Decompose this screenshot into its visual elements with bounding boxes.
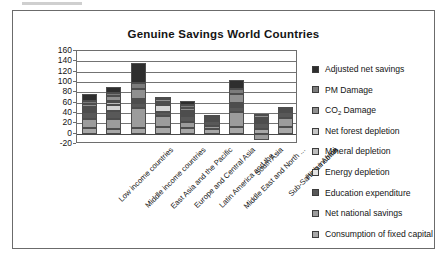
bar-segment <box>106 93 121 96</box>
bar-segment <box>254 123 269 129</box>
bar-segment <box>131 108 146 128</box>
bar-segment <box>180 111 195 113</box>
bar-segment <box>229 127 244 133</box>
bar-segment <box>204 129 219 134</box>
bar-segment <box>155 127 170 133</box>
bar-segment <box>106 111 121 119</box>
bar-column <box>180 51 195 142</box>
bar-segment <box>180 122 195 128</box>
bar-segment <box>106 129 121 134</box>
legend-swatch-icon <box>312 210 319 217</box>
bar-segment <box>155 112 170 116</box>
bar-segment <box>278 107 293 109</box>
bar-segment <box>229 94 244 103</box>
legend-swatch-icon <box>312 66 319 73</box>
legend-swatch-icon <box>312 189 319 196</box>
bar-segment <box>82 112 97 118</box>
chart-frame: Genuine Savings World Countries 16014012… <box>12 10 435 249</box>
y-axis-tick-mark <box>73 133 76 134</box>
bar-segment <box>106 101 121 103</box>
y-axis-tick-mark <box>73 102 76 103</box>
plot-wrapper: 160140120100806040200-20 <box>76 50 297 143</box>
bar-segment <box>180 101 195 106</box>
bar-segment <box>82 94 97 101</box>
bar-column <box>229 51 244 142</box>
bar-column <box>82 51 97 142</box>
bar-segment <box>204 126 219 129</box>
bar-segment <box>82 109 97 111</box>
bar-segment <box>204 118 219 120</box>
bar-segment <box>82 104 97 108</box>
bar-segment <box>180 128 195 134</box>
y-axis-tick-label: 120 <box>58 66 72 75</box>
y-axis-tick-label: 100 <box>58 77 72 86</box>
bar-segment <box>229 89 244 95</box>
legend-swatch-icon <box>312 169 319 176</box>
bar-column <box>278 51 293 142</box>
bar-segment <box>278 118 293 127</box>
bar-column <box>131 51 146 142</box>
legend-item[interactable]: Mineral depletion <box>312 141 447 162</box>
legend-label: Net forest depletion <box>325 127 400 136</box>
legend-item[interactable]: Net forest depletion <box>312 121 447 142</box>
bar-segment <box>106 105 121 111</box>
bar-segment <box>131 99 146 101</box>
bar-segment <box>155 99 170 102</box>
bar-segment <box>254 134 269 141</box>
bar-segment <box>106 96 121 101</box>
legend-item[interactable]: Education expenditure <box>312 183 447 204</box>
legend-label: PM Damage <box>325 86 373 95</box>
y-axis-tick-mark <box>73 81 76 82</box>
bar-segment <box>155 105 170 112</box>
bar-segment <box>278 110 293 112</box>
chart-screenshot: Genuine Savings World Countries 16014012… <box>0 0 447 259</box>
bar-segment <box>82 107 97 109</box>
chart-title: Genuine Savings World Countries <box>13 28 434 40</box>
legend-label: Adjusted net savings <box>325 65 404 74</box>
y-axis-tick-label: 160 <box>58 46 72 55</box>
legend-swatch-icon <box>312 231 319 238</box>
bar-segment <box>106 119 121 129</box>
y-axis-tick-mark <box>73 91 76 92</box>
bar-column <box>106 51 121 142</box>
bar-segment <box>229 107 244 112</box>
legend-item[interactable]: PM Damage <box>312 80 447 101</box>
y-axis-tick-label: -20 <box>60 139 72 148</box>
y-axis-tick-label: 40 <box>63 108 72 117</box>
legend-item[interactable]: Adjusted net savings <box>312 59 447 80</box>
y-axis-tick-mark <box>73 122 76 123</box>
bar-column <box>204 51 219 142</box>
legend-label: Mineral depletion <box>325 147 390 156</box>
bar-segment <box>204 115 219 117</box>
bar-segment <box>131 103 146 108</box>
bar-segment <box>106 87 121 93</box>
bar-segment <box>180 116 195 122</box>
legend-swatch-icon <box>312 107 319 114</box>
legend-item[interactable]: CO2 Damage <box>312 100 447 121</box>
y-axis-tick-label: 80 <box>63 87 72 96</box>
bar-segment <box>155 97 170 99</box>
legend-item[interactable]: Energy depletion <box>312 162 447 183</box>
bar-segment <box>180 108 195 111</box>
bar-segment <box>82 119 97 128</box>
legend-label: Net national savings <box>325 209 402 218</box>
bar-segment <box>131 83 146 89</box>
legend-label: CO2 Damage <box>325 106 376 115</box>
legend-item[interactable]: Net national savings <box>312 203 447 224</box>
legend-label: Energy depletion <box>325 168 390 177</box>
bar-segment <box>131 128 146 134</box>
legend-item[interactable]: Consumption of fixed capital <box>312 224 447 245</box>
legend-swatch-icon <box>312 148 319 155</box>
legend-swatch-icon <box>312 86 319 93</box>
plot-area <box>76 50 297 143</box>
bar-segment <box>254 114 269 116</box>
bars-layer <box>77 51 296 142</box>
bar-segment <box>229 103 244 105</box>
y-axis-tick-mark <box>73 60 76 61</box>
y-axis-tick-mark <box>73 50 76 51</box>
bar-segment <box>229 112 244 128</box>
bar-segment <box>180 105 195 108</box>
bar-segment <box>254 120 269 122</box>
bar-segment <box>131 63 146 83</box>
y-axis-tick-mark <box>73 71 76 72</box>
